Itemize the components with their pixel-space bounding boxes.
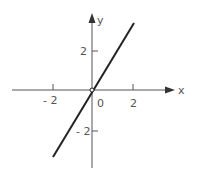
y-tick-label-2: 2: [80, 45, 87, 58]
x-axis-arrow-icon: [165, 87, 175, 94]
x-tick-label-2: 2: [130, 97, 137, 110]
chart: x y - 2 2 0 2 - 2: [0, 0, 198, 172]
origin-open-circle: [90, 88, 94, 92]
y-axis-arrow-icon: [89, 13, 96, 23]
x-axis-label: x: [178, 84, 185, 97]
origin-label: 0: [97, 97, 104, 110]
y-axis-label: y: [97, 14, 104, 27]
x-tick-label-neg2: - 2: [43, 94, 57, 107]
y-tick-label-neg2: - 2: [76, 125, 90, 138]
